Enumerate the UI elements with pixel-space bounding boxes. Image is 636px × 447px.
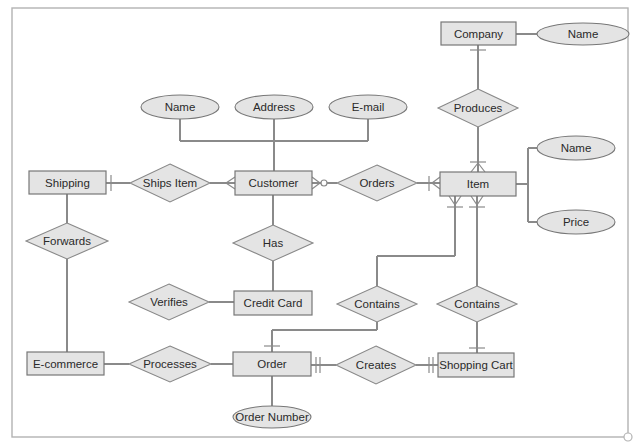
- relationship-contains-cart[interactable]: Contains: [437, 286, 517, 322]
- relationship-label: Has: [263, 237, 284, 249]
- relationship-label: Contains: [354, 298, 400, 310]
- entity-order[interactable]: Order: [233, 352, 311, 376]
- attribute-customer-address[interactable]: Address: [235, 95, 313, 119]
- relationship-processes[interactable]: Processes: [129, 346, 211, 382]
- entity-ecommerce[interactable]: E-commerce: [27, 352, 104, 375]
- relationship-label: Processes: [143, 358, 197, 370]
- relationship-label: Produces: [454, 102, 503, 114]
- attribute-item-name[interactable]: Name: [537, 136, 615, 160]
- entity-label: Credit Card: [244, 297, 303, 309]
- relationship-contains-order[interactable]: Contains: [337, 286, 417, 322]
- entity-credit-card[interactable]: Credit Card: [234, 291, 312, 315]
- relationship-orders[interactable]: Orders: [337, 165, 417, 201]
- relationship-label: Forwards: [43, 235, 91, 247]
- entity-label: Order: [257, 358, 287, 370]
- attribute-item-price[interactable]: Price: [537, 210, 615, 234]
- entity-customer[interactable]: Customer: [235, 171, 312, 195]
- entity-label: Shopping Cart: [439, 359, 513, 371]
- entity-shipping[interactable]: Shipping: [29, 171, 106, 194]
- entity-label: Item: [467, 178, 489, 190]
- relationship-label: Ships Item: [143, 177, 197, 189]
- er-diagram-canvas: Company Shipping Customer Item Credit Ca…: [0, 0, 636, 447]
- attribute-label: Name: [561, 142, 592, 154]
- entity-label: Shipping: [45, 177, 90, 189]
- attribute-company-name[interactable]: Name: [537, 23, 629, 45]
- attribute-label: Order Number: [235, 411, 309, 423]
- entity-label: Company: [454, 28, 503, 40]
- attribute-label: Name: [568, 28, 599, 40]
- entity-item[interactable]: Item: [440, 172, 516, 196]
- attribute-order-number[interactable]: Order Number: [233, 406, 311, 428]
- attribute-label: E-mail: [352, 101, 385, 113]
- relationship-label: Verifies: [150, 296, 188, 308]
- attribute-customer-email[interactable]: E-mail: [329, 95, 407, 119]
- relationship-creates[interactable]: Creates: [336, 346, 416, 384]
- relationship-forwards[interactable]: Forwards: [26, 223, 108, 259]
- relationship-produces[interactable]: Produces: [438, 89, 518, 127]
- relationship-ships-item[interactable]: Ships Item: [130, 164, 210, 202]
- attribute-label: Name: [165, 101, 196, 113]
- relationship-has[interactable]: Has: [233, 225, 313, 261]
- entity-shopping-cart[interactable]: Shopping Cart: [438, 353, 514, 377]
- connectors: [67, 34, 538, 406]
- relationship-verifies[interactable]: Verifies: [129, 284, 209, 320]
- entity-label: Customer: [249, 177, 299, 189]
- entity-company[interactable]: Company: [441, 22, 516, 45]
- entity-label: E-commerce: [33, 358, 98, 370]
- relationship-label: Contains: [454, 298, 500, 310]
- relationship-label: Creates: [356, 359, 397, 371]
- resize-handle-icon[interactable]: [624, 433, 632, 441]
- attribute-customer-name[interactable]: Name: [141, 95, 219, 119]
- attribute-label: Price: [563, 216, 589, 228]
- relationship-label: Orders: [359, 177, 394, 189]
- attribute-label: Address: [253, 101, 295, 113]
